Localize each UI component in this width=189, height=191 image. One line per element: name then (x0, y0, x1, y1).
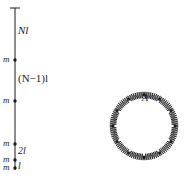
mass-label: m (3, 54, 10, 64)
mass-label: m (3, 162, 10, 172)
segment-label-N-1-l: (N−1)l (18, 72, 48, 84)
segment-label-Nl: Nl (18, 24, 28, 36)
mass-label: m (3, 138, 10, 148)
segment-label-2l: 2l (18, 145, 26, 156)
ring-point-label: A (142, 92, 148, 103)
segment-label-l: l (18, 160, 21, 171)
mass-label: m (3, 95, 10, 105)
